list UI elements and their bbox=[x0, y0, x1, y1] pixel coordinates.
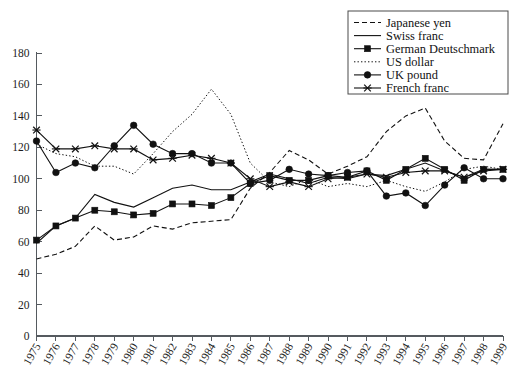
y-tick-label: 80 bbox=[18, 204, 30, 216]
x-tick-label: 1987 bbox=[254, 341, 276, 367]
legend-label: UK pound bbox=[386, 68, 439, 82]
data-point-marker bbox=[150, 210, 156, 216]
series-uk-pound bbox=[33, 122, 506, 209]
data-point-marker bbox=[53, 223, 59, 229]
series-line bbox=[37, 125, 504, 205]
data-point-marker bbox=[422, 155, 428, 161]
x-tick-label: 1997 bbox=[448, 341, 470, 367]
series-german-deutschmark bbox=[34, 155, 507, 243]
data-point-marker bbox=[365, 46, 371, 52]
data-point-marker bbox=[480, 175, 487, 182]
data-point-marker bbox=[91, 142, 99, 149]
data-point-marker bbox=[72, 215, 78, 221]
y-axis-group: 020406080100120140160180 bbox=[12, 47, 41, 342]
x-tick-label: 1986 bbox=[235, 341, 257, 367]
data-point-marker bbox=[228, 195, 234, 201]
x-tick-label: 1975 bbox=[21, 341, 43, 367]
y-tick-label: 160 bbox=[12, 78, 30, 90]
y-tick-label: 140 bbox=[12, 110, 30, 122]
x-tick-label: 1978 bbox=[79, 341, 101, 367]
data-point-marker bbox=[305, 183, 313, 190]
chart-canvas: 020406080100120140160180 197519761977197… bbox=[0, 0, 525, 385]
data-point-marker bbox=[92, 164, 99, 171]
x-tick-label: 1998 bbox=[468, 341, 490, 367]
data-point-marker bbox=[34, 237, 40, 243]
data-point-marker bbox=[150, 141, 157, 148]
x-tick-label: 1992 bbox=[351, 341, 373, 367]
x-axis-ticks: 1975197619771978197919801981198219831984… bbox=[21, 336, 510, 367]
x-tick-label: 1994 bbox=[390, 341, 412, 367]
data-point-marker bbox=[364, 72, 371, 79]
y-tick-label: 120 bbox=[12, 141, 30, 153]
x-tick-label: 1982 bbox=[157, 341, 179, 367]
data-point-marker bbox=[189, 201, 195, 207]
data-point-marker bbox=[305, 171, 312, 178]
data-point-marker bbox=[441, 182, 448, 189]
data-point-marker bbox=[130, 122, 137, 129]
data-point-marker bbox=[266, 177, 273, 184]
x-tick-label: 1999 bbox=[487, 341, 509, 367]
data-point-marker bbox=[131, 212, 137, 218]
data-point-marker bbox=[500, 175, 507, 182]
x-axis-group: 1975197619771978197919801981198219831984… bbox=[21, 336, 510, 367]
data-point-marker bbox=[403, 166, 409, 172]
x-tick-label: 1984 bbox=[196, 341, 218, 367]
x-tick-label: 1983 bbox=[176, 341, 198, 367]
data-point-marker bbox=[266, 183, 274, 190]
y-tick-label: 20 bbox=[18, 299, 30, 311]
data-point-marker bbox=[461, 164, 468, 171]
data-point-marker bbox=[208, 203, 214, 209]
legend-label: Japanese yen bbox=[386, 16, 451, 30]
x-tick-label: 1976 bbox=[40, 341, 62, 367]
data-point-marker bbox=[53, 169, 60, 176]
y-tick-label: 180 bbox=[12, 47, 30, 59]
x-tick-label: 1990 bbox=[312, 341, 334, 367]
chart-legend: Japanese yenSwiss francGerman Deutschmar… bbox=[348, 11, 508, 95]
legend-label: US dollar bbox=[386, 55, 435, 69]
y-tick-label: 60 bbox=[18, 236, 30, 248]
data-point-marker bbox=[149, 157, 157, 164]
series-layer bbox=[32, 89, 507, 259]
data-point-marker bbox=[71, 146, 79, 153]
data-point-marker bbox=[383, 193, 390, 200]
data-point-marker bbox=[422, 202, 429, 209]
legend-label: Swiss franc bbox=[386, 29, 444, 43]
x-tick-label: 1980 bbox=[118, 341, 140, 367]
y-tick-label: 0 bbox=[24, 330, 30, 342]
x-tick-label: 1995 bbox=[410, 341, 432, 367]
y-axis-ticks: 020406080100120140160180 bbox=[12, 47, 41, 342]
data-point-marker bbox=[52, 146, 60, 153]
legend-label: German Deutschmark bbox=[386, 42, 496, 56]
x-tick-label: 1991 bbox=[332, 341, 354, 367]
data-point-marker bbox=[461, 177, 467, 183]
x-tick-label: 1977 bbox=[60, 341, 82, 367]
data-point-marker bbox=[170, 201, 176, 207]
data-point-marker bbox=[403, 190, 410, 197]
data-point-marker bbox=[111, 209, 117, 215]
x-tick-label: 1981 bbox=[137, 341, 159, 367]
y-tick-label: 40 bbox=[18, 267, 30, 279]
data-point-marker bbox=[33, 138, 40, 145]
x-tick-label: 1989 bbox=[293, 341, 315, 367]
x-tick-label: 1979 bbox=[99, 341, 121, 367]
legend-label: French franc bbox=[386, 81, 449, 95]
x-tick-label: 1985 bbox=[215, 341, 237, 367]
currency-index-line-chart: 020406080100120140160180 197519761977197… bbox=[0, 0, 525, 385]
x-tick-label: 1993 bbox=[371, 341, 393, 367]
data-point-marker bbox=[286, 166, 293, 173]
x-tick-label: 1988 bbox=[274, 341, 296, 367]
data-point-marker bbox=[130, 146, 138, 153]
data-point-marker bbox=[421, 168, 429, 175]
x-tick-label: 1996 bbox=[429, 341, 451, 367]
y-tick-label: 100 bbox=[12, 173, 30, 185]
data-point-marker bbox=[92, 207, 98, 213]
data-point-marker bbox=[72, 160, 79, 167]
